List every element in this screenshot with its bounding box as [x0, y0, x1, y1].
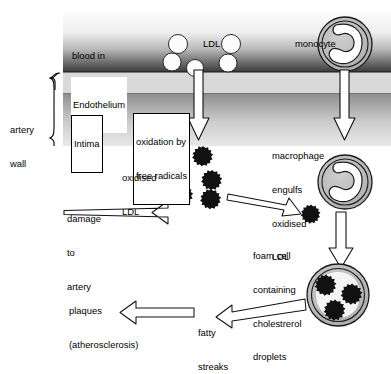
oxidised-ldl-particle: [192, 146, 213, 166]
ldl-particle: [219, 54, 237, 72]
monocyte-label: monocyte: [295, 16, 336, 72]
oxidised-ldl-particle: [200, 189, 221, 209]
artery-wall-label: artery wall: [10, 102, 34, 192]
plaques-label: plaques (atherosclerosis): [69, 283, 138, 373]
oxidised-ldl-label: oxidised LDL: [122, 150, 156, 240]
foam-cell-arrow: [329, 212, 353, 268]
artery-wall-bracket: [50, 73, 60, 146]
foam-cell-label: foam cell containing cholestrerol drople…: [253, 228, 301, 374]
ldl-label: LDL: [203, 16, 220, 72]
ldl-particle: [169, 35, 188, 54]
intima-label: Intima: [71, 115, 103, 173]
fatty-streaks-label: fatty streaks: [198, 305, 228, 374]
ldl-particle: [222, 35, 241, 54]
oxidised-ldl-particle: [201, 170, 222, 190]
ldl-particle: [163, 53, 181, 71]
